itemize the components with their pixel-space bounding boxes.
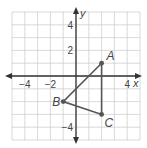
vertices: ABC — [52, 49, 114, 130]
x-tick-label: 4 — [124, 79, 130, 90]
y-axis-arrow-down — [73, 137, 79, 144]
x-axis-arrow-left — [5, 73, 12, 79]
coordinate-plane: x y −4−2442−4 ABC — [0, 0, 147, 148]
vertex-label-b: B — [52, 95, 60, 109]
x-axis-label: x — [132, 77, 139, 89]
vertex-b — [61, 99, 66, 104]
vertex-c — [99, 112, 104, 117]
y-tick-label: 2 — [67, 45, 73, 56]
vertex-label-a: A — [106, 49, 115, 63]
x-tick-label: −2 — [45, 79, 57, 90]
y-tick-label: 4 — [67, 20, 73, 31]
y-tick-label: −4 — [62, 122, 74, 133]
axes: x y — [5, 7, 142, 144]
vertex-label-c: C — [105, 116, 114, 130]
vertex-a — [99, 61, 104, 66]
x-tick-label: −4 — [19, 79, 31, 90]
y-axis-label: y — [79, 7, 87, 19]
y-axis-arrow-up — [73, 7, 79, 14]
